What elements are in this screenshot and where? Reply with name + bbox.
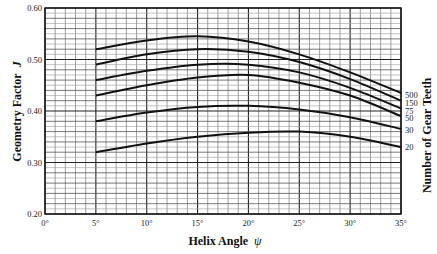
x-tick-label: 20°: [242, 218, 254, 228]
x-axis-symbol: ψ: [254, 234, 261, 248]
series-label-30: 30: [405, 125, 414, 135]
x-tick-label: 35°: [395, 218, 407, 228]
x-axis-label: Helix Angle: [188, 234, 248, 248]
x-tick-label: 10°: [141, 218, 153, 228]
y-tick-label: 0.50: [27, 55, 42, 65]
y-tick-label: 0.20: [27, 209, 42, 219]
x-tick-label: 30°: [344, 218, 356, 228]
grid: [45, 8, 401, 214]
x-tick-label: 15°: [192, 218, 204, 228]
x-tick-label: 0°: [41, 218, 49, 228]
series-label-20: 20: [405, 142, 414, 152]
chart-canvas: 0.200.300.400.500.600°5°10°15°20°25°30°3…: [0, 0, 437, 254]
legend-title: Number of Gear Teeth: [420, 61, 435, 211]
y-axis-title: Geometry Factor J: [10, 37, 25, 187]
y-tick-label: 0.40: [27, 106, 42, 116]
y-axis-symbol: J: [10, 61, 24, 67]
y-tick-label: 0.30: [27, 158, 42, 168]
x-tick-label: 25°: [293, 218, 305, 228]
series-label-50: 50: [405, 113, 414, 123]
y-axis-label: Geometry Factor: [10, 73, 24, 161]
x-tick-label: 5°: [92, 218, 100, 228]
x-axis-title: Helix Angle ψ: [150, 234, 300, 249]
y-tick-label: 0.60: [27, 3, 42, 13]
